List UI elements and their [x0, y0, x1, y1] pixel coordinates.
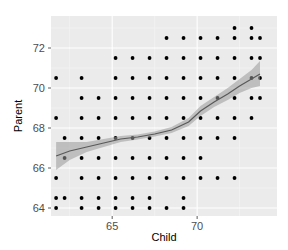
- data-point: [148, 56, 152, 60]
- data-point: [182, 176, 186, 180]
- data-point: [233, 116, 237, 120]
- data-point: [165, 206, 169, 210]
- y-tick-label: 68: [33, 122, 45, 134]
- data-point: [199, 136, 203, 140]
- data-point: [114, 156, 118, 160]
- data-point: [148, 206, 152, 210]
- data-point: [233, 136, 237, 140]
- y-tick-label: 72: [33, 42, 45, 54]
- data-point: [148, 96, 152, 100]
- x-axis-title: Child: [151, 231, 176, 243]
- data-point: [114, 206, 118, 210]
- data-point: [148, 76, 152, 80]
- data-point: [258, 96, 262, 100]
- data-point: [54, 206, 58, 210]
- data-point: [216, 36, 220, 40]
- data-point: [63, 196, 67, 200]
- data-point: [250, 26, 254, 30]
- data-point: [165, 136, 169, 140]
- data-point: [80, 176, 84, 180]
- data-point: [54, 76, 58, 80]
- data-point: [182, 36, 186, 40]
- data-point: [148, 176, 152, 180]
- y-axis: 6466687072: [33, 42, 51, 214]
- data-point: [216, 176, 220, 180]
- data-point: [199, 56, 203, 60]
- x-tick-label: 65: [106, 220, 118, 232]
- data-point: [114, 96, 118, 100]
- data-point: [114, 176, 118, 180]
- data-point: [131, 206, 135, 210]
- data-point: [165, 176, 169, 180]
- data-point: [148, 156, 152, 160]
- data-point: [114, 76, 118, 80]
- x-tick-label: 70: [191, 220, 203, 232]
- data-point: [54, 116, 58, 120]
- data-point: [80, 136, 84, 140]
- data-point: [114, 56, 118, 60]
- data-point: [80, 196, 84, 200]
- data-point: [97, 156, 101, 160]
- data-point: [199, 36, 203, 40]
- data-point: [182, 206, 186, 210]
- data-point: [54, 196, 58, 200]
- data-point: [233, 56, 237, 60]
- data-point: [97, 176, 101, 180]
- data-point: [97, 116, 101, 120]
- data-point: [216, 76, 220, 80]
- data-point: [80, 76, 84, 80]
- data-point: [80, 206, 84, 210]
- data-point: [182, 196, 186, 200]
- y-tick-label: 70: [33, 82, 45, 94]
- data-point: [233, 76, 237, 80]
- data-point: [165, 76, 169, 80]
- data-point: [131, 56, 135, 60]
- data-point: [80, 116, 84, 120]
- data-point: [80, 96, 84, 100]
- data-point: [199, 176, 203, 180]
- data-point: [131, 76, 135, 80]
- data-point: [131, 116, 135, 120]
- y-tick-label: 66: [33, 162, 45, 174]
- data-point: [182, 96, 186, 100]
- y-tick-label: 64: [33, 202, 45, 214]
- data-point: [165, 96, 169, 100]
- data-point: [114, 196, 118, 200]
- data-point: [233, 26, 237, 30]
- data-point: [250, 36, 254, 40]
- data-point: [199, 156, 203, 160]
- data-point: [233, 176, 237, 180]
- data-point: [216, 136, 220, 140]
- data-point: [80, 156, 84, 160]
- data-point: [131, 96, 135, 100]
- plot-panel: [51, 16, 277, 216]
- data-point: [97, 96, 101, 100]
- data-point: [63, 136, 67, 140]
- data-point: [165, 116, 169, 120]
- data-point: [199, 96, 203, 100]
- data-point: [258, 56, 262, 60]
- data-point: [182, 76, 186, 80]
- data-point: [114, 116, 118, 120]
- data-point: [97, 136, 101, 140]
- data-point: [182, 116, 186, 120]
- y-axis-title: Parent: [12, 100, 24, 132]
- data-point: [182, 136, 186, 140]
- data-point: [199, 76, 203, 80]
- data-point: [165, 36, 169, 40]
- data-point: [54, 176, 58, 180]
- data-point: [131, 176, 135, 180]
- data-point: [250, 116, 254, 120]
- data-point: [97, 196, 101, 200]
- data-point: [216, 116, 220, 120]
- data-point: [165, 156, 169, 160]
- scatter-chart: 6570 6466687072 Child Parent: [0, 0, 288, 250]
- data-point: [148, 196, 152, 200]
- data-point: [216, 56, 220, 60]
- data-point: [148, 116, 152, 120]
- data-point: [250, 56, 254, 60]
- x-axis: 6570: [106, 216, 203, 232]
- data-point: [182, 56, 186, 60]
- data-point: [131, 156, 135, 160]
- data-point: [258, 36, 262, 40]
